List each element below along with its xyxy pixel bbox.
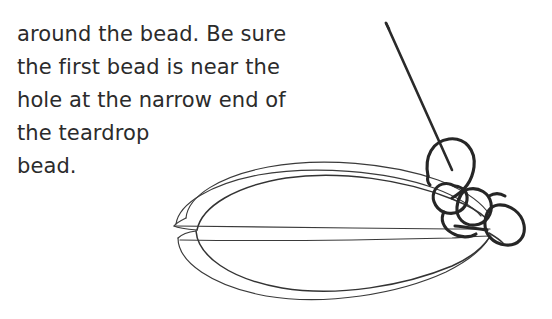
needle: [386, 23, 452, 170]
illustration-page: around the bead. Be sure the first bead …: [0, 0, 552, 319]
teardrop-upper-arc-2: [176, 170, 481, 224]
needle-shaft: [386, 23, 452, 170]
thread-flick-upper-right: [489, 194, 505, 196]
thread-line-lower: [180, 236, 491, 240]
teardrop-lower-tip-cap: [178, 231, 196, 238]
bead-diagram: [0, 0, 552, 319]
needle-point: [386, 23, 389, 29]
thread-line-upper: [175, 226, 490, 229]
